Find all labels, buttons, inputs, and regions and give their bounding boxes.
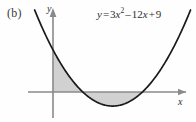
equation-constant: 9 [156,8,162,20]
equation-coef-lin: 12 [132,8,143,20]
x-axis-label: x [178,96,182,107]
y-axis-label: y [47,3,51,14]
equation-plus: + [148,8,156,20]
equation-minus: – [124,8,132,20]
figure-container: (b) y=3x2–12x+9 y x [0,0,196,122]
equation-equals: = [102,8,110,20]
equation-label: y=3x2–12x+9 [97,8,161,20]
equation-var-lin: x [143,8,148,20]
x-axis-arrow [178,89,186,95]
shaded-region-positive [53,50,83,92]
